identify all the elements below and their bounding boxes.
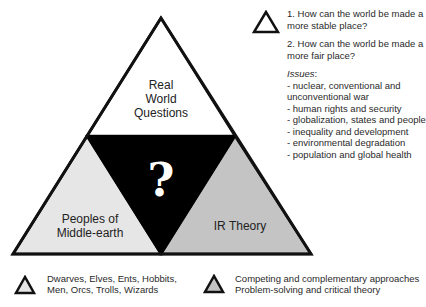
ir-theory-label: IR Theory [190,219,290,233]
text-line: Problem-solving and critical theory [235,284,419,295]
text-line: more fair place? [287,50,355,61]
text-line: 1. How can the world be made a [287,8,423,19]
question-mark: ? [136,157,186,203]
text-line: Competing and complementary approaches [235,273,419,284]
text-line: Men, Orcs, Trolls, Wizards [47,284,177,295]
label-line: World [116,92,206,106]
question-2: 2. How can the world be made a more fair… [287,38,426,61]
issues-title: Issues [287,68,314,79]
questions-and-issues: 1. How can the world be made a more stab… [287,8,426,160]
issue-item: - environmental degradation [287,137,426,149]
ir-theory-legend: Competing and complementary approaches P… [235,273,419,295]
label-line: Peoples of [40,212,140,226]
issue-item: - human rights and security [287,103,426,115]
question-1: 1. How can the world be made a more stab… [287,8,426,31]
text-line: more stable place? [287,20,367,31]
issue-item: - population and global health [287,149,426,161]
label-line: Real [116,78,206,92]
triangle-light-gray-icon [14,275,36,295]
label-line: Middle-earth [40,226,140,240]
issue-item: - inequality and development [287,126,426,138]
triangle-outline-white-icon [252,10,280,34]
issue-item: - globalization, states and people [287,114,426,126]
peoples-legend: Dwarves, Elves, Ents, Hobbits, Men, Orcs… [47,273,177,295]
label-line: Questions [116,106,206,120]
text-line: Dwarves, Elves, Ents, Hobbits, [47,273,177,284]
colon: : [314,68,317,79]
issue-item: - nuclear, conventional and unconvention… [287,80,426,103]
real-world-questions-label: Real World Questions [116,78,206,120]
issues-heading: Issues: [287,68,426,80]
triangle-gray-icon [203,274,225,294]
peoples-label: Peoples of Middle-earth [40,212,140,240]
text-line: 2. How can the world be made a [287,38,423,49]
